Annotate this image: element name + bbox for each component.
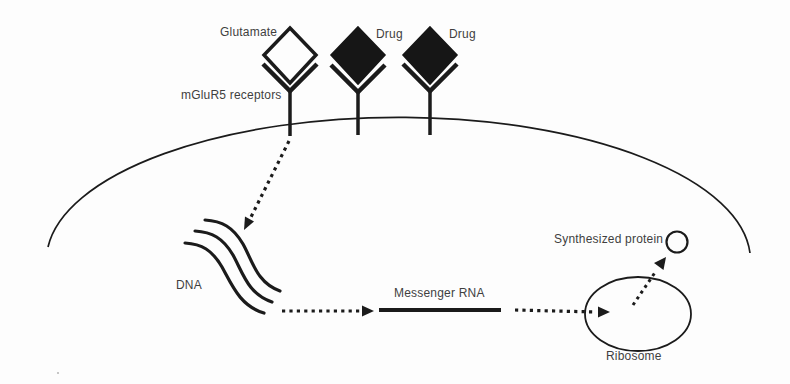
dna-strands — [185, 220, 280, 313]
dna-label: DNA — [176, 279, 202, 292]
pathway-diagram: Glutamate Drug Drug mGluR5 receptors DNA… — [0, 0, 790, 384]
signal-arrowhead — [244, 217, 254, 231]
protein-output-arrowhead — [654, 257, 666, 270]
transcription-arrow — [282, 306, 374, 317]
ribosome-label: Ribosome — [606, 350, 662, 363]
dna-strand-1 — [205, 220, 280, 291]
scan-speck — [57, 372, 59, 374]
synthesized-protein-label: Synthesized protein — [554, 233, 663, 246]
mglur5-receptors-label: mGluR5 receptors — [181, 89, 282, 102]
dna-strand-2 — [195, 231, 272, 302]
translation-arrow-dots — [515, 310, 596, 312]
transcription-arrowhead — [362, 306, 374, 317]
protein-circle-icon — [667, 232, 688, 253]
glutamate-label: Glutamate — [220, 26, 277, 39]
signal-arrow-dots — [250, 141, 289, 219]
drug-label-1: Drug — [376, 28, 403, 41]
diagram-canvas — [0, 0, 790, 384]
receptor-1 — [263, 28, 317, 136]
drug-label-2: Drug — [449, 28, 476, 41]
messenger-rna-label: Messenger RNA — [394, 287, 485, 300]
signal-arrow — [244, 141, 289, 230]
